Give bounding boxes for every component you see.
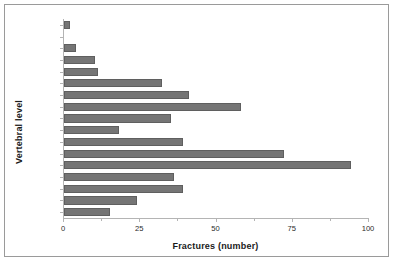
plot-area: T1T2T3T4T5T6T7T8T9T10T11T12L1L2L3L4L5 02… — [63, 19, 368, 218]
bar — [64, 68, 98, 76]
y-tick-mark — [60, 165, 63, 166]
y-tick-mark — [60, 154, 63, 155]
bar — [64, 150, 284, 158]
bar — [64, 196, 137, 204]
bar — [64, 79, 162, 87]
y-axis-title: Vertebral level — [11, 57, 27, 207]
y-tick-mark — [60, 200, 63, 201]
x-minor-tick-mark — [101, 218, 102, 221]
y-tick-mark — [60, 212, 63, 213]
y-tick-mark — [60, 83, 63, 84]
y-tick-mark — [60, 72, 63, 73]
bar — [64, 173, 174, 181]
bar — [64, 91, 189, 99]
bar — [64, 21, 70, 29]
y-tick-mark — [60, 48, 63, 49]
y-tick-mark — [60, 189, 63, 190]
x-tick-label: 50 — [199, 224, 233, 233]
bar — [64, 208, 110, 216]
x-tick-mark — [216, 218, 217, 222]
x-tick-label: 0 — [46, 224, 80, 233]
y-tick-mark — [60, 118, 63, 119]
x-tick-mark — [63, 218, 64, 222]
x-minor-tick-mark — [177, 218, 178, 221]
bar — [64, 138, 183, 146]
y-tick-mark — [60, 60, 63, 61]
bar — [64, 56, 95, 64]
x-tick-label: 75 — [275, 224, 309, 233]
bar — [64, 114, 171, 122]
bar — [64, 44, 76, 52]
bar — [64, 161, 351, 169]
y-tick-mark — [60, 142, 63, 143]
bar — [64, 103, 241, 111]
x-tick-label: 100 — [351, 224, 385, 233]
x-minor-tick-mark — [330, 218, 331, 221]
bar — [64, 126, 119, 134]
bar — [64, 185, 183, 193]
y-tick-mark — [60, 177, 63, 178]
y-tick-mark — [60, 37, 63, 38]
y-tick-mark — [60, 25, 63, 26]
x-tick-mark — [368, 218, 369, 222]
chart-frame: Vertebral level T1T2T3T4T5T6T7T8T9T10T11… — [4, 4, 389, 257]
x-tick-mark — [139, 218, 140, 222]
x-tick-label: 25 — [122, 224, 156, 233]
y-tick-mark — [60, 95, 63, 96]
x-minor-tick-mark — [254, 218, 255, 221]
x-tick-mark — [292, 218, 293, 222]
x-axis-title: Fractures (number) — [63, 241, 368, 251]
y-tick-mark — [60, 130, 63, 131]
y-tick-mark — [60, 107, 63, 108]
